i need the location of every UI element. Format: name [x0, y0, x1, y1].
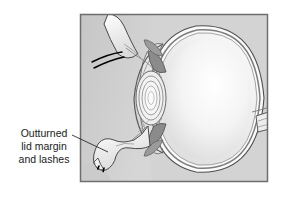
- lens-ring-5: [148, 92, 154, 105]
- callout-line-1: Outturned: [21, 127, 68, 139]
- callout-line-2: lid margin: [21, 140, 67, 152]
- vitreous-body: [162, 38, 252, 160]
- figure-root: Outturned lid margin and lashes: [0, 0, 281, 199]
- eye-cross-section-illustration: Outturned lid margin and lashes: [0, 0, 281, 199]
- callout-line-3: and lashes: [19, 153, 70, 165]
- crystalline-lens: [136, 71, 166, 125]
